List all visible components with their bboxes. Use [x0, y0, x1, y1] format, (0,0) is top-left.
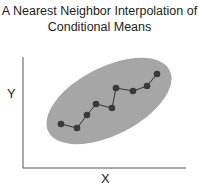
data-point — [109, 105, 116, 112]
data-point — [58, 121, 65, 128]
data-point — [154, 71, 161, 78]
y-axis-label: Y — [7, 86, 16, 101]
chart-canvas — [0, 0, 199, 194]
data-point — [130, 88, 137, 95]
data-point — [84, 112, 91, 119]
data-point — [93, 101, 100, 108]
data-cloud-ellipse — [33, 40, 185, 162]
data-point — [74, 125, 81, 132]
x-axis-label: X — [101, 171, 110, 186]
data-point — [144, 83, 151, 90]
data-point — [113, 85, 120, 92]
